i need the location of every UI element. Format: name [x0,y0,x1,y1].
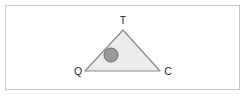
vertex-label-t: T [120,14,127,26]
diagram-canvas: T Q C [0,0,247,97]
inscribed-circle-marker [104,48,118,62]
vertex-label-q: Q [74,65,82,77]
vertex-label-c: C [164,65,172,77]
triangle-figure: T Q C [0,0,247,97]
triangle-shape [85,30,160,71]
